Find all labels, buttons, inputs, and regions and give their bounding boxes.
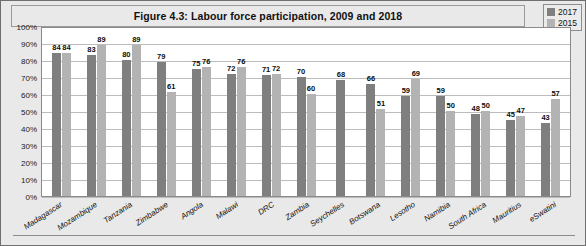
y-axis-tick: 20% xyxy=(21,159,37,168)
figure-title-bar: Figure 4.3: Labour force participation, … xyxy=(11,5,525,27)
y-axis-tick: 30% xyxy=(21,142,37,151)
y-axis-tick: 90% xyxy=(21,40,37,49)
x-axis-tick-label: Angola xyxy=(179,200,205,221)
bar: 60 xyxy=(307,94,316,196)
x-axis-category: Angola xyxy=(182,198,217,239)
bar-value-label: 50 xyxy=(447,102,455,110)
bar: 57 xyxy=(551,99,560,196)
bar-groups: 8484838980897961757672767172706068665159… xyxy=(42,28,570,196)
bar: 43 xyxy=(541,123,550,196)
legend-item-2017: 2017 xyxy=(547,7,577,17)
x-axis: MadagascarMozambiqueTanzaniaZimbabweAngo… xyxy=(41,198,571,239)
bar-fill xyxy=(97,45,106,196)
bar-value-label: 59 xyxy=(402,87,410,95)
bar-value-label: 72 xyxy=(272,65,280,73)
bar-value-label: 80 xyxy=(122,51,130,59)
bar: 89 xyxy=(132,45,141,196)
bar-value-label: 83 xyxy=(87,46,95,54)
bar-fill xyxy=(87,55,96,196)
bar-value-label: 72 xyxy=(227,65,235,73)
bar-value-label: 45 xyxy=(506,111,514,119)
bar: 50 xyxy=(481,111,490,196)
bar: 50 xyxy=(446,111,455,196)
bar-fill xyxy=(446,111,455,196)
bar-fill xyxy=(132,45,141,196)
y-axis-tick: 10% xyxy=(21,176,37,185)
bar-value-label: 66 xyxy=(367,75,375,83)
bar: 70 xyxy=(297,77,306,196)
bar-value-label: 89 xyxy=(97,36,105,44)
bar-fill xyxy=(307,94,316,196)
bar-fill xyxy=(401,96,410,196)
bar: 59 xyxy=(401,96,410,196)
bar-fill xyxy=(506,120,515,197)
bar: 76 xyxy=(202,67,211,196)
bar: 72 xyxy=(227,74,236,196)
bar-group: 8089 xyxy=(114,28,149,196)
bar: 80 xyxy=(122,60,131,196)
bar-fill xyxy=(272,74,281,196)
plot-area: 8484838980897961757672767172706068665159… xyxy=(41,27,571,197)
bar-group: 7172 xyxy=(254,28,289,196)
bar-value-label: 60 xyxy=(307,85,315,93)
bar: 68 xyxy=(336,80,345,196)
bar: 75 xyxy=(192,69,201,197)
bar-value-label: 68 xyxy=(337,71,345,79)
x-axis-category: DRC xyxy=(253,198,288,239)
bar-value-label: 47 xyxy=(516,107,524,115)
bar-group: 6651 xyxy=(358,28,393,196)
legend-label-2017: 2017 xyxy=(558,8,577,17)
bar-value-label: 76 xyxy=(202,58,210,66)
bar-group: 4357 xyxy=(533,28,568,196)
bar: 66 xyxy=(366,84,375,196)
bar: 84 xyxy=(62,53,71,196)
y-axis-tick: 60% xyxy=(21,91,37,100)
bar: 79 xyxy=(157,62,166,196)
bar-group: 5950 xyxy=(428,28,463,196)
bar-fill xyxy=(376,109,385,196)
y-axis-tick: 0% xyxy=(25,193,37,202)
bar: 59 xyxy=(436,96,445,196)
bar-group: 7276 xyxy=(219,28,254,196)
bar-group: 7576 xyxy=(184,28,219,196)
y-axis-tick: 50% xyxy=(21,108,37,117)
bar-value-label: 89 xyxy=(132,36,140,44)
bar: 89 xyxy=(97,45,106,196)
bar-fill xyxy=(551,99,560,196)
bar-value-label: 59 xyxy=(437,87,445,95)
bar-fill xyxy=(192,69,201,197)
bar-fill xyxy=(122,60,131,196)
bar-fill xyxy=(411,79,420,196)
page-title: Figure 4.3: Labour force participation, … xyxy=(134,10,402,22)
bar-value-label: 70 xyxy=(297,68,305,76)
bar-value-label: 71 xyxy=(262,66,270,74)
plot-wrapper: 100%90%80%70%60%50%40%30%20%10%0% 848483… xyxy=(9,27,579,239)
x-axis-category: Zimbabwe xyxy=(147,198,182,239)
bar-fill xyxy=(237,67,246,196)
bar-fill xyxy=(202,67,211,196)
legend-swatch-2015 xyxy=(547,19,555,27)
bar: 83 xyxy=(87,55,96,196)
bar-fill xyxy=(52,53,61,196)
bar-group: 68 xyxy=(324,28,359,196)
bar: 71 xyxy=(262,75,271,196)
x-axis-tick-label: DRC xyxy=(256,200,275,217)
bar-value-label: 48 xyxy=(472,105,480,113)
bar: 47 xyxy=(516,116,525,196)
bar-fill xyxy=(62,53,71,196)
bar-fill xyxy=(262,75,271,196)
bar-fill xyxy=(297,77,306,196)
bar-fill xyxy=(471,114,480,196)
bar-fill xyxy=(366,84,375,196)
bar-value-label: 84 xyxy=(52,44,60,52)
bar-value-label: 57 xyxy=(551,90,559,98)
bar-fill xyxy=(481,111,490,196)
bar-group: 4547 xyxy=(498,28,533,196)
y-axis: 100%90%80%70%60%50%40%30%20%10%0% xyxy=(9,27,39,197)
bar-group: 8484 xyxy=(44,28,79,196)
footer-rule xyxy=(13,235,575,236)
y-axis-tick: 70% xyxy=(21,74,37,83)
bar-fill xyxy=(157,62,166,196)
bar-value-label: 51 xyxy=(377,100,385,108)
y-axis-tick: 80% xyxy=(21,57,37,66)
